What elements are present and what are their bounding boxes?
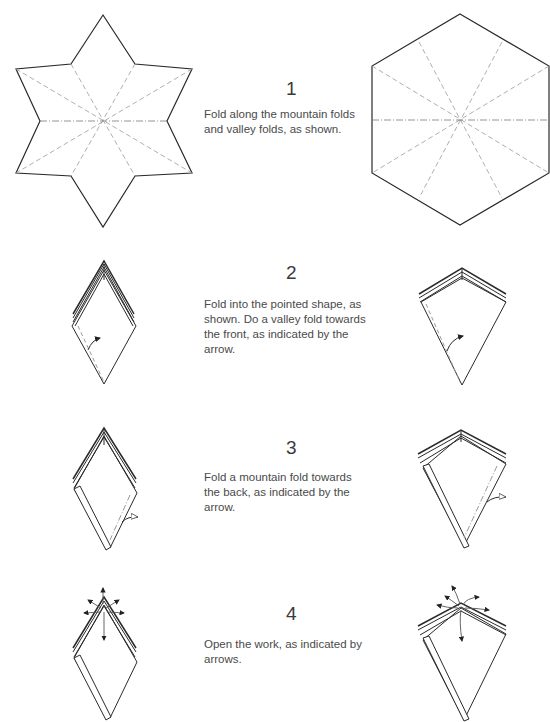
step4-left-figure xyxy=(73,588,137,720)
step-number: 4 xyxy=(286,603,297,625)
step2-left-figure xyxy=(72,261,136,384)
step-instruction: Fold along the mountain folds and valley… xyxy=(204,107,364,137)
step-number: 1 xyxy=(286,78,297,100)
star-crease-pattern xyxy=(16,15,192,227)
step-instruction: Fold a mountain fold towards the back, a… xyxy=(204,470,369,515)
step-instruction: Fold into the pointed shape, as shown. D… xyxy=(204,297,366,357)
step3-left-figure xyxy=(73,428,138,550)
step3-right-figure xyxy=(418,430,506,548)
step-number: 3 xyxy=(286,437,297,459)
step2-right-figure xyxy=(419,268,506,385)
hexagon-crease-pattern xyxy=(372,14,549,225)
step4-right-figure xyxy=(418,586,506,721)
step-number: 2 xyxy=(286,262,297,284)
step-instruction: Open the work, as indicated by arrows. xyxy=(204,637,364,667)
